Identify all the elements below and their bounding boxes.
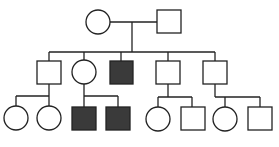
III-7-female xyxy=(213,107,237,131)
III-2-female xyxy=(37,106,61,130)
II-4-male xyxy=(156,61,180,84)
III-5-female xyxy=(146,107,170,131)
III-3-male-affected xyxy=(72,107,96,130)
II-3-male-affected xyxy=(110,61,133,84)
I-2-male xyxy=(157,10,181,33)
pedigree-diagram xyxy=(0,0,279,147)
II-1-male xyxy=(37,61,61,84)
III-1-female xyxy=(4,106,28,130)
I-1-female xyxy=(86,10,110,34)
III-8-male xyxy=(248,107,272,130)
II-5-male xyxy=(203,61,227,84)
II-2-female xyxy=(72,60,96,84)
III-6-male xyxy=(181,107,205,130)
III-4-male-affected xyxy=(106,107,130,130)
